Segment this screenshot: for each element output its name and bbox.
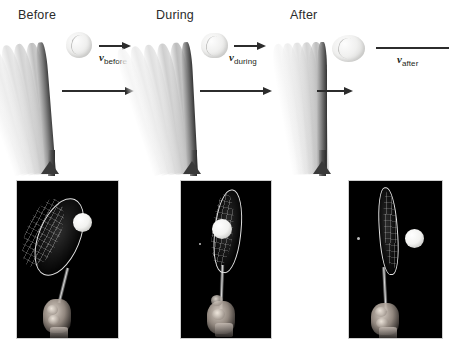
ball-before (66, 32, 92, 58)
phase-label-during: During (156, 8, 194, 22)
ball-seam (204, 34, 225, 57)
knuckle-photo (47, 305, 58, 315)
photo-during (180, 180, 272, 339)
ball-after (332, 35, 365, 62)
photo-before (16, 180, 119, 339)
phase-label-before: Before (18, 8, 56, 22)
ball-photo-contact (212, 219, 232, 239)
racket-grip (313, 161, 331, 174)
wrist-photo (50, 327, 68, 339)
knuckle-photo (375, 307, 387, 317)
dust-speck (357, 237, 360, 240)
ball-seam (69, 33, 90, 56)
phase-label-after: After (290, 8, 317, 22)
panel-after: After vafter (290, 0, 449, 180)
ball-velocity-label-during: vduring (229, 51, 257, 66)
wrist-photo (215, 323, 233, 337)
knuckle-photo (211, 295, 223, 306)
photo-after (348, 180, 443, 339)
tennis-impact-figure: Before vbefore (0, 0, 449, 354)
ball-velocity-label-after: vafter (397, 53, 418, 68)
racket-grip (41, 161, 59, 174)
panel-during: During vduring (145, 0, 290, 180)
v-subscript: during (234, 57, 257, 66)
ball-photo (405, 229, 424, 248)
ball-seam (336, 36, 361, 61)
panel-before: Before vbefore (0, 0, 145, 180)
ball-photo (73, 213, 92, 232)
racket-grip (183, 161, 201, 174)
knuckle-photo (48, 315, 60, 325)
knuckle-photo (212, 309, 225, 320)
v-subscript: after (402, 59, 419, 68)
wrist-photo (379, 327, 397, 339)
dust-speck (199, 243, 201, 245)
ball-during (201, 33, 228, 58)
